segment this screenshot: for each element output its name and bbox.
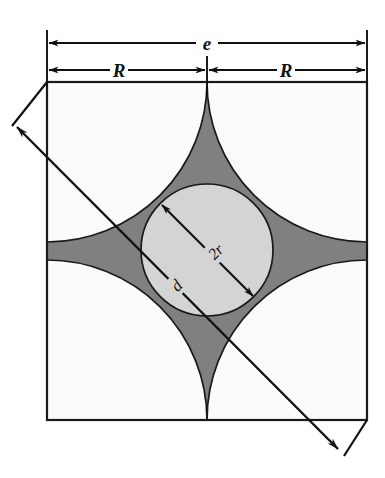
dimension-e: e <box>49 30 365 54</box>
figure-canvas: e R R 2r d <box>0 0 385 478</box>
geometry-figure: e R R 2r d <box>0 0 385 478</box>
dimension-label-R-left: R <box>112 60 126 81</box>
dimension-R-left: R <box>49 60 205 81</box>
dimension-R-right: R <box>209 60 365 81</box>
dimension-label-e: e <box>203 33 212 54</box>
dimension-label-R-right: R <box>279 60 293 81</box>
